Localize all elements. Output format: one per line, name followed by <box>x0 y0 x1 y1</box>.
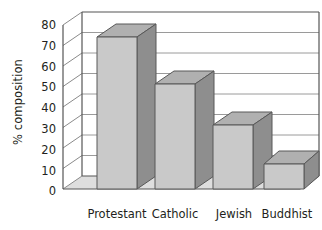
bar-buddhist <box>264 151 319 189</box>
bar-protestant <box>97 24 156 189</box>
bar-front-face <box>155 84 195 189</box>
bar-side-face <box>195 71 214 189</box>
bar-jewish <box>213 112 272 189</box>
bar-front-face <box>264 164 304 189</box>
plot-area <box>0 0 322 230</box>
x-label-buddhist: Buddhist <box>252 207 322 221</box>
bar-front-face <box>97 37 137 189</box>
bar-front-face <box>213 125 253 189</box>
bar-side-face <box>137 24 156 189</box>
bar-catholic <box>155 71 214 189</box>
bar-chart: % composition 80 70 60 50 40 30 20 10 0 <box>0 0 322 230</box>
